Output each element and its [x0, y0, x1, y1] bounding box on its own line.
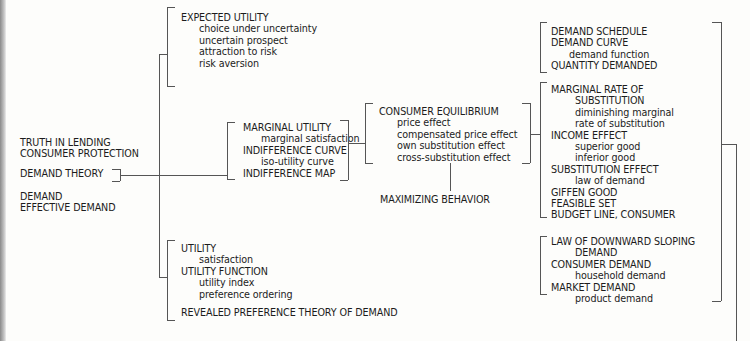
term-indifference-map: INDIFFERENCE MAP — [243, 168, 360, 179]
connector — [120, 175, 227, 176]
subterm: law of demand — [551, 175, 675, 186]
connector — [540, 217, 547, 218]
term-marginal-utility: MARGINAL UTILITY — [243, 122, 360, 133]
root-group: TRUTH IN LENDING CONSUMER PROTECTION — [20, 137, 139, 160]
connector — [721, 22, 722, 301]
connector — [167, 7, 175, 8]
connector — [530, 103, 531, 163]
subterm: demand function — [551, 49, 657, 60]
term-budget-line: BUDGET LINE, CONSUMER — [551, 209, 675, 220]
subterm: own substitution effect — [379, 140, 517, 151]
term-market-demand: MARKET DEMAND — [551, 282, 695, 293]
consumer-equilibrium-group: CONSUMER EQUILIBRIUM price effect compen… — [379, 106, 517, 163]
connector — [227, 122, 228, 179]
connector — [736, 144, 737, 341]
demand-theory-label: DEMAND THEORY — [20, 168, 103, 179]
subterm: rate of substitution — [551, 118, 675, 129]
subterm: choice under uncertainty — [181, 23, 317, 34]
subterm: attraction to risk — [181, 46, 317, 57]
connector — [450, 163, 451, 191]
term-demand-curve: DEMAND CURVE — [551, 37, 657, 48]
connector — [340, 120, 348, 121]
law-of-demand-group: LAW OF DOWNWARD SLOPING DEMAND CONSUMER … — [551, 236, 695, 304]
term-marginal-rate-of-substitution: MARGINAL RATE OF — [551, 84, 675, 95]
term-demand-theory: DEMAND THEORY — [20, 168, 103, 179]
mrs-group: MARGINAL RATE OF SUBSTITUTION diminishin… — [551, 84, 675, 221]
term-income-effect: INCOME EFFECT — [551, 130, 675, 141]
term-consumer-equilibrium: CONSUMER EQUILIBRIUM — [379, 106, 517, 117]
marginal-utility-group: MARGINAL UTILITY marginal satisfaction I… — [243, 122, 360, 179]
connector — [112, 169, 120, 170]
term-giffen-good: GIFFEN GOOD — [551, 187, 675, 198]
connector — [167, 240, 168, 320]
term-consumer-protection: CONSUMER PROTECTION — [20, 148, 139, 159]
subterm: preference ordering — [181, 289, 398, 300]
connector — [159, 54, 167, 55]
connector — [112, 181, 120, 182]
expected-utility-group: EXPECTED UTILITY choice under uncertaint… — [181, 12, 317, 69]
subterm: uncertain prospect — [181, 35, 317, 46]
connector — [365, 103, 373, 104]
subterm: satisfaction — [181, 254, 398, 265]
connector — [712, 22, 721, 23]
connector — [167, 86, 175, 87]
subterm: price effect — [379, 117, 517, 128]
term-demand: DEMAND — [20, 191, 115, 202]
maximizing-behavior-label: MAXIMIZING BEHAVIOR — [380, 194, 490, 205]
subterm: superior good — [551, 141, 675, 152]
connector — [227, 122, 235, 123]
connector — [522, 103, 530, 104]
demand-schedule-group: DEMAND SCHEDULE DEMAND CURVE demand func… — [551, 26, 657, 72]
connector — [365, 163, 373, 164]
connector — [540, 72, 547, 73]
term-effective-demand: EFFECTIVE DEMAND — [20, 202, 115, 213]
term-maximizing-behavior: MAXIMIZING BEHAVIOR — [380, 194, 490, 205]
connector — [540, 236, 547, 237]
connector — [522, 163, 530, 164]
subterm: marginal satisfaction — [243, 133, 360, 144]
connector — [348, 143, 365, 144]
subterm: compensated price effect — [379, 129, 517, 140]
subterm: diminishing marginal — [551, 107, 675, 118]
connector — [540, 82, 547, 83]
term-marginal-rate-of-substitution-cont: SUBSTITUTION — [551, 95, 675, 106]
connector — [540, 294, 547, 295]
utility-group: UTILITY satisfaction UTILITY FUNCTION ut… — [181, 243, 398, 318]
connector — [348, 120, 349, 180]
connector — [540, 236, 541, 294]
subterm: product demand — [551, 293, 695, 304]
connector — [365, 103, 366, 163]
term-indifference-curve: INDIFFERENCE CURVE — [243, 145, 360, 156]
connector — [540, 82, 541, 217]
connector — [227, 179, 235, 180]
subterm: risk aversion — [181, 58, 317, 69]
subterm: household demand — [551, 270, 695, 281]
term-truth-in-lending: TRUTH IN LENDING — [20, 137, 139, 148]
term-consumer-demand: CONSUMER DEMAND — [551, 259, 695, 270]
term-demand-schedule: DEMAND SCHEDULE — [551, 26, 657, 37]
connector — [530, 134, 540, 135]
term-expected-utility: EXPECTED UTILITY — [181, 12, 317, 23]
connector — [540, 22, 547, 23]
root-group-lower: DEMAND EFFECTIVE DEMAND — [20, 191, 115, 214]
term-utility-function: UTILITY FUNCTION — [181, 266, 398, 277]
connector — [540, 22, 541, 72]
connector — [159, 277, 167, 278]
subterm: iso-utility curve — [243, 156, 360, 167]
term-substitution-effect: SUBSTITUTION EFFECT — [551, 164, 675, 175]
connector — [167, 320, 175, 321]
subterm: inferior good — [551, 152, 675, 163]
connector — [159, 54, 160, 277]
connector — [167, 7, 168, 86]
subterm: cross-substitution effect — [379, 152, 517, 163]
term-law-of-downward-sloping-demand-cont: DEMAND — [551, 247, 695, 258]
connector — [340, 180, 348, 181]
connector — [721, 144, 736, 145]
subterm: utility index — [181, 277, 398, 288]
term-utility: UTILITY — [181, 243, 398, 254]
term-law-of-downward-sloping-demand: LAW OF DOWNWARD SLOPING — [551, 236, 695, 247]
term-feasible-set: FEASIBLE SET — [551, 198, 675, 209]
scan-edge-strip — [0, 0, 6, 341]
term-quantity-demanded: QUANTITY DEMANDED — [551, 60, 657, 71]
term-revealed-preference: REVEALED PREFERENCE THEORY OF DEMAND — [181, 307, 398, 318]
